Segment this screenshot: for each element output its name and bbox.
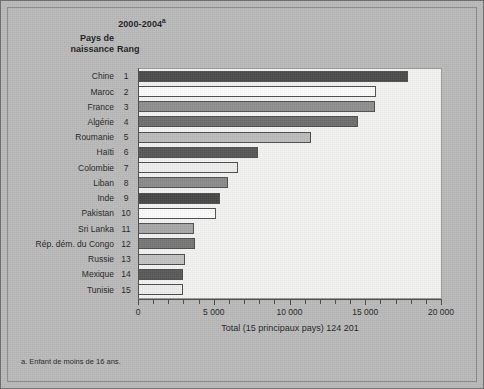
rank-label: 14 bbox=[115, 269, 137, 279]
x-axis-minor-tick bbox=[350, 300, 351, 304]
x-axis-major-tick bbox=[365, 300, 366, 305]
rank-label: 2 bbox=[115, 87, 137, 97]
bar bbox=[138, 162, 238, 173]
x-axis-minor-tick bbox=[183, 300, 184, 304]
bar bbox=[138, 86, 376, 97]
bar bbox=[138, 193, 220, 204]
category-label: Inde bbox=[21, 193, 114, 203]
category-label: Chine bbox=[21, 71, 114, 81]
bar-row bbox=[138, 99, 441, 114]
column-header-rank: Rang bbox=[117, 44, 143, 54]
x-axis-minor-tick bbox=[335, 300, 336, 304]
category-label: Colombie bbox=[21, 163, 114, 173]
category-label: Russie bbox=[21, 254, 114, 264]
rank-label: 3 bbox=[115, 102, 137, 112]
rank-label: 6 bbox=[115, 147, 137, 157]
x-axis-minor-tick bbox=[320, 300, 321, 304]
x-axis-major-tick bbox=[138, 300, 139, 305]
x-axis-tick-label: 15 000 bbox=[343, 307, 387, 317]
x-axis-minor-tick bbox=[411, 300, 412, 304]
category-label: Liban bbox=[21, 178, 114, 188]
bar-row bbox=[138, 69, 441, 84]
x-axis-minor-tick bbox=[259, 300, 260, 304]
bar bbox=[138, 71, 408, 82]
rank-label: 4 bbox=[115, 117, 137, 127]
period-title: 2000-2004a bbox=[87, 17, 197, 29]
rank-label: 10 bbox=[115, 208, 137, 218]
period-title-footnote-marker: a bbox=[162, 17, 166, 24]
rank-label: 11 bbox=[115, 224, 137, 234]
category-label: Rép. dém. du Congo bbox=[21, 239, 114, 249]
category-label: Algérie bbox=[21, 117, 114, 127]
category-label: Haïti bbox=[21, 147, 114, 157]
bar-row bbox=[138, 114, 441, 129]
figure-footnote: a. Enfant de moins de 16 ans. bbox=[21, 357, 121, 366]
bar-row bbox=[138, 252, 441, 267]
x-axis-tick-label: 5 000 bbox=[192, 307, 236, 317]
category-label: Maroc bbox=[21, 87, 114, 97]
bar bbox=[138, 116, 358, 127]
category-label: France bbox=[21, 102, 114, 112]
rank-label: 1 bbox=[115, 71, 137, 81]
x-axis-major-tick bbox=[441, 300, 442, 305]
bar-row bbox=[138, 191, 441, 206]
bar bbox=[138, 284, 183, 295]
rank-label: 12 bbox=[115, 239, 137, 249]
rank-label: 5 bbox=[115, 132, 137, 142]
x-axis-minor-tick bbox=[274, 300, 275, 304]
category-label: Sri Lanka bbox=[21, 224, 114, 234]
category-label: Mexique bbox=[21, 269, 114, 279]
x-axis-minor-tick bbox=[426, 300, 427, 304]
bar bbox=[138, 147, 258, 158]
x-axis-minor-tick bbox=[305, 300, 306, 304]
rank-label: 13 bbox=[115, 254, 137, 264]
bar bbox=[138, 132, 311, 143]
x-axis-tick-label: 20 000 bbox=[419, 307, 463, 317]
bar-row bbox=[138, 282, 441, 297]
rank-label: 7 bbox=[115, 163, 137, 173]
x-axis-minor-tick bbox=[396, 300, 397, 304]
bar-row bbox=[138, 221, 441, 236]
rank-label: 15 bbox=[115, 285, 137, 295]
x-axis-minor-tick bbox=[244, 300, 245, 304]
x-axis-tick-label: 10 000 bbox=[268, 307, 312, 317]
bar bbox=[138, 223, 194, 234]
category-label: Pakistan bbox=[21, 208, 114, 218]
bar bbox=[138, 269, 183, 280]
bar-row bbox=[138, 236, 441, 251]
category-label: Tunisie bbox=[21, 285, 114, 295]
x-axis-major-tick bbox=[290, 300, 291, 305]
x-axis-tick-label: 0 bbox=[116, 307, 160, 317]
x-axis-title: Total (15 principaux pays) 124 201 bbox=[138, 323, 442, 333]
column-header-country: Pays denaissance bbox=[21, 33, 114, 55]
category-label: Roumanie bbox=[21, 132, 114, 142]
x-axis-minor-tick bbox=[153, 300, 154, 304]
x-axis-minor-tick bbox=[380, 300, 381, 304]
bar-row bbox=[138, 267, 441, 282]
bar bbox=[138, 238, 195, 249]
bar bbox=[138, 177, 228, 188]
bar bbox=[138, 101, 375, 112]
bar bbox=[138, 254, 185, 265]
x-axis-minor-tick bbox=[168, 300, 169, 304]
x-axis-major-tick bbox=[214, 300, 215, 305]
bar-row bbox=[138, 84, 441, 99]
bar bbox=[138, 208, 216, 219]
bar-row bbox=[138, 206, 441, 221]
figure-container: 2000-2004a Pays denaissance Rang Chine1M… bbox=[0, 0, 484, 389]
rank-label: 8 bbox=[115, 178, 137, 188]
x-axis-minor-tick bbox=[199, 300, 200, 304]
bar-row bbox=[138, 145, 441, 160]
x-axis-minor-tick bbox=[229, 300, 230, 304]
period-title-text: 2000-2004 bbox=[118, 19, 162, 29]
bar-row bbox=[138, 175, 441, 190]
rank-label: 9 bbox=[115, 193, 137, 203]
bar-row bbox=[138, 160, 441, 175]
bar-row bbox=[138, 130, 441, 145]
